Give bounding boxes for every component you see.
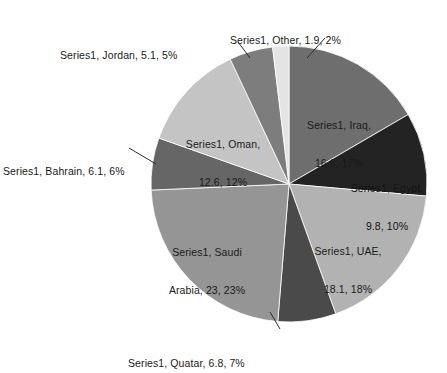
data-label-uae: Series1, UAE, 18.1, 18% bbox=[296, 220, 400, 320]
data-label-jordan: Series1, Jordan, 5.1, 5% bbox=[60, 24, 240, 87]
data-label-oman: Series1, Oman, 12.6, 12% bbox=[168, 113, 278, 213]
data-label-quatar: Series1, Quatar, 6.8, 7% bbox=[128, 332, 313, 373]
data-label-saudi-arabia: Series1, Saudi Arabia, 23, 23% bbox=[146, 221, 268, 321]
data-label-bahrain: Series1, Bahrain, 6.1, 6% bbox=[3, 140, 143, 203]
data-label-other: Series1, Other, 1.9, 2% bbox=[230, 9, 445, 72]
